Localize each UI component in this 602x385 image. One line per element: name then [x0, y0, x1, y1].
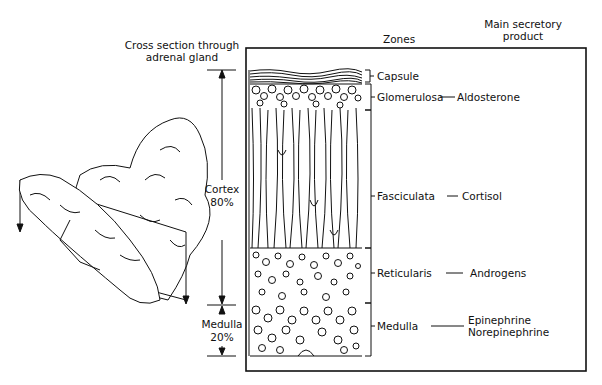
zone-reticularis: Reticularis	[377, 267, 432, 279]
medulla-region-percent: 20%	[192, 331, 252, 343]
blood-vessel	[298, 350, 314, 356]
product-androgens: Androgens	[470, 267, 526, 279]
left-title-line1: Cross section through	[112, 39, 252, 51]
region-arrows	[207, 70, 236, 356]
capsule-layer	[250, 69, 362, 84]
zone-capsule: Capsule	[377, 70, 419, 82]
glomerulosa-layer	[250, 84, 362, 108]
zones-header: Zones	[383, 33, 415, 45]
product-aldosterone: Aldosterone	[457, 91, 520, 103]
zone-brackets	[365, 70, 375, 356]
product-header-line1: Main secretory	[468, 18, 578, 30]
reticularis-layer	[253, 252, 361, 301]
product-header-line2: product	[468, 30, 578, 42]
medulla-region-label: Medulla	[192, 318, 252, 330]
product-connectors	[431, 97, 464, 326]
fasciculata-layer	[250, 108, 362, 248]
medulla-layer	[250, 306, 362, 356]
cortex-percent: 80%	[192, 196, 252, 208]
product-cortisol: Cortisol	[462, 190, 502, 202]
left-title-line2: adrenal gland	[112, 51, 252, 63]
tissue-section	[249, 69, 362, 356]
product-epinephrine: Epinephrine	[468, 314, 531, 326]
zone-glomerulosa: Glomerulosa	[377, 91, 443, 103]
zone-medulla: Medulla	[377, 320, 418, 332]
adrenal-gland-drawing	[17, 118, 210, 304]
product-norepinephrine: Norepinephrine	[468, 326, 549, 338]
zone-fasciculata: Fasciculata	[377, 190, 435, 202]
cortex-label: Cortex	[192, 183, 252, 195]
